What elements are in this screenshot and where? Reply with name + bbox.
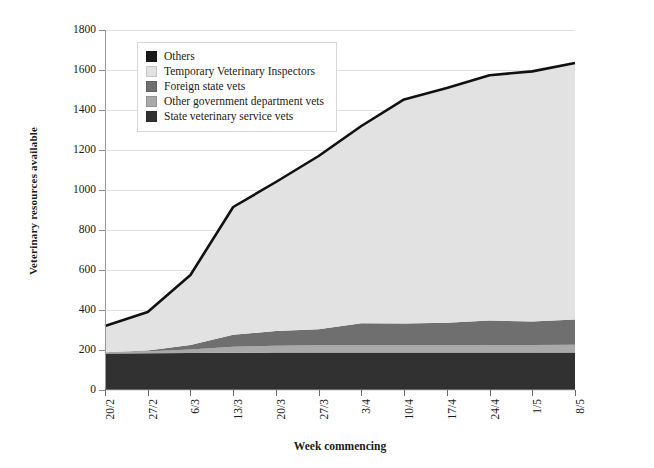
y-tick-label: 0 (90, 384, 96, 396)
x-tick-mark (447, 390, 448, 396)
y-tick-mark (99, 270, 105, 271)
x-axis-line (105, 389, 575, 390)
x-tick-label: 17/4 (446, 399, 458, 419)
legend-swatch-icon (146, 81, 157, 92)
x-tick-mark (190, 390, 191, 396)
x-tick-label: 27/2 (147, 399, 159, 419)
x-tick-label: 10/4 (403, 399, 415, 419)
y-tick-label: 200 (79, 344, 96, 356)
y-tick-label: 1800 (73, 24, 96, 36)
x-tick-label: 3/4 (360, 399, 372, 414)
legend-swatch-icon (146, 66, 157, 77)
x-tick-label: 20/2 (104, 399, 116, 419)
x-tick-mark (276, 390, 277, 396)
y-tick-label: 1400 (73, 104, 96, 116)
legend-item: Others (146, 49, 324, 64)
legend-item: Other government department vets (146, 94, 324, 109)
y-axis-line (105, 30, 106, 390)
y-tick-mark (99, 150, 105, 151)
area-band (105, 352, 575, 390)
x-tick-mark (575, 390, 576, 396)
y-tick-mark (99, 310, 105, 311)
legend-item: Foreign state vets (146, 79, 324, 94)
x-tick-mark (490, 390, 491, 396)
x-tick-label: 27/3 (318, 399, 330, 419)
legend-item: State veterinary service vets (146, 109, 324, 124)
y-tick-mark (99, 230, 105, 231)
legend-item: Temporary Veterinary Inspectors (146, 64, 324, 79)
y-tick-mark (99, 70, 105, 71)
legend-item-label: Foreign state vets (164, 81, 245, 93)
y-tick-mark (99, 350, 105, 351)
y-tick-mark (99, 110, 105, 111)
chart-legend: OthersTemporary Veterinary InspectorsFor… (137, 42, 337, 132)
x-tick-mark (233, 390, 234, 396)
x-tick-label: 1/5 (531, 399, 543, 414)
x-tick-mark (105, 390, 106, 396)
y-tick-label: 800 (79, 224, 96, 236)
legend-item-label: State veterinary service vets (164, 111, 293, 123)
x-tick-mark (404, 390, 405, 396)
y-tick-label: 400 (79, 304, 96, 316)
y-tick-label: 1000 (73, 184, 96, 196)
y-tick-label: 600 (79, 264, 96, 276)
x-axis-title: Week commencing (105, 440, 575, 452)
legend-item-label: Temporary Veterinary Inspectors (164, 66, 315, 78)
legend-swatch-icon (146, 96, 157, 107)
x-tick-label: 20/3 (275, 399, 287, 419)
x-tick-mark (532, 390, 533, 396)
legend-item-label: Other government department vets (164, 96, 324, 108)
y-tick-mark (99, 30, 105, 31)
x-tick-mark (148, 390, 149, 396)
y-tick-mark (99, 190, 105, 191)
x-tick-label: 13/3 (232, 399, 244, 419)
x-tick-mark (319, 390, 320, 396)
x-tick-mark (361, 390, 362, 396)
x-tick-label: 6/3 (189, 399, 201, 414)
legend-swatch-icon (146, 111, 157, 122)
gridline (105, 390, 575, 391)
legend-item-label: Others (164, 51, 195, 63)
x-tick-label: 24/4 (489, 399, 501, 419)
y-tick-label: 1600 (73, 64, 96, 76)
y-tick-label: 1200 (73, 144, 96, 156)
y-axis-title: Veterinary resources available (27, 76, 39, 326)
chart-container: Veterinary resources available 020040060… (0, 0, 654, 468)
legend-swatch-icon (146, 51, 157, 62)
x-tick-label: 8/5 (574, 399, 586, 414)
